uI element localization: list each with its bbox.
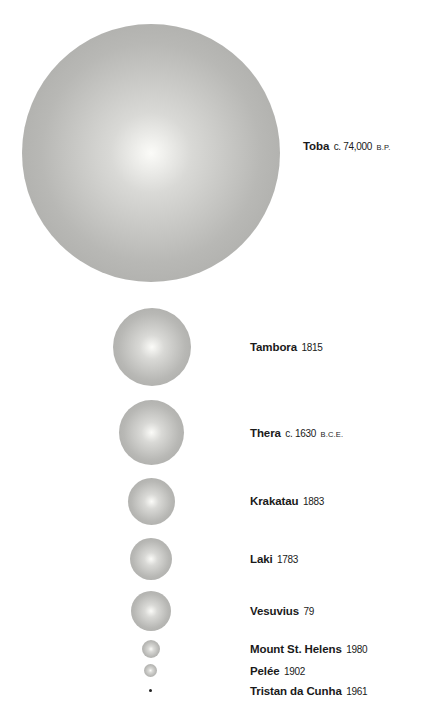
sphere-mount-st-helens xyxy=(142,640,160,658)
sphere-tristan-da-cunha xyxy=(149,689,152,692)
volcano-name: Tambora xyxy=(250,341,297,353)
sphere-tambora xyxy=(113,308,191,386)
label-tambora: Tambora 1815 xyxy=(250,338,323,354)
eruption-era: B.C.E. xyxy=(320,430,343,439)
eruption-date: 1902 xyxy=(284,666,305,677)
eruption-date: 1980 xyxy=(346,644,367,655)
eruption-date: c. 1630 xyxy=(285,428,316,439)
volcano-name: Vesuvius xyxy=(250,605,299,617)
eruption-date: 1961 xyxy=(346,686,367,697)
eruption-era: B.P. xyxy=(377,143,391,152)
label-laki: Laki 1783 xyxy=(250,550,298,566)
eruption-date: 1783 xyxy=(277,554,298,565)
label-vesuvius: Vesuvius 79 xyxy=(250,602,314,618)
sphere-krakatau xyxy=(128,478,175,525)
volcano-name: Mount St. Helens xyxy=(250,643,342,655)
volcano-name: Tristan da Cunha xyxy=(250,685,342,697)
sphere-laki xyxy=(130,538,172,580)
label-tristan-da-cunha: Tristan da Cunha 1961 xyxy=(250,682,367,698)
sphere-pelee xyxy=(144,664,157,677)
label-mount-st-helens: Mount St. Helens 1980 xyxy=(250,640,367,656)
eruption-date: 1815 xyxy=(301,342,322,353)
eruption-date: 79 xyxy=(304,606,315,617)
label-toba: Toba c. 74,000 B.P. xyxy=(303,137,391,153)
sphere-thera xyxy=(119,400,184,465)
eruption-date: c. 74,000 xyxy=(334,141,372,152)
sphere-toba xyxy=(22,24,280,282)
volcano-name: Toba xyxy=(303,140,329,152)
label-krakatau: Krakatau 1883 xyxy=(250,492,324,508)
sphere-vesuvius xyxy=(131,591,171,631)
label-thera: Thera c. 1630 B.C.E. xyxy=(250,424,343,440)
volcano-name: Thera xyxy=(250,427,281,439)
label-pelee: Pelée 1902 xyxy=(250,662,305,678)
eruption-date: 1883 xyxy=(303,496,324,507)
volcano-name: Laki xyxy=(250,553,273,565)
volcano-name: Pelée xyxy=(250,665,280,677)
volcano-name: Krakatau xyxy=(250,495,298,507)
